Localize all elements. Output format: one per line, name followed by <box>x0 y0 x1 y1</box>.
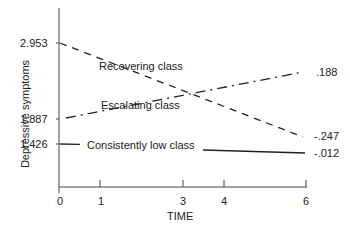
y-tick-label: 1.887 <box>20 114 48 125</box>
y-tick-label: 1.426 <box>20 139 48 150</box>
escalating-line <box>66 72 303 118</box>
series-label-escalating: Escalating class <box>101 100 180 111</box>
y-tick-label: 2.953 <box>20 38 48 49</box>
low-line <box>203 150 305 153</box>
x-tick-label: 4 <box>221 196 227 207</box>
slope-label-recovering: -.247 <box>314 131 339 142</box>
chart-canvas <box>0 0 350 232</box>
x-axis-label: TIME <box>167 211 193 222</box>
slope-label-escalating: .188 <box>316 67 337 78</box>
x-tick-label: 6 <box>303 196 309 207</box>
series-label-recovering: Recovering class <box>99 61 183 72</box>
slope-label-low: -.012 <box>314 148 339 159</box>
recovering-line <box>60 43 303 137</box>
x-tick-label: 0 <box>57 196 63 207</box>
x-tick-label: 1 <box>98 196 104 207</box>
series-label-low: Consistently low class <box>87 140 195 151</box>
x-tick-label: 3 <box>180 196 186 207</box>
